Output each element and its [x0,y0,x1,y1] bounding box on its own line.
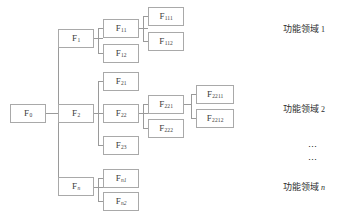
node-label-base: F [207,90,212,99]
node-label-subscript: 2211 [212,94,223,100]
node-label-base: F [116,174,121,183]
node-label-subscript: 2212 [212,118,223,124]
node-label-base: F [72,182,77,191]
node-label-subscript: n2 [121,201,127,207]
domain-label-text: 功能领域 [283,182,319,192]
node-label-subscript: 111 [165,16,173,22]
ellipsis-2: … [308,153,318,162]
node-label-subscript: 2 [77,113,80,119]
node-f1[interactable]: F1 [58,29,94,48]
node-f21[interactable]: F21 [103,72,139,91]
node-f222[interactable]: F222 [148,119,184,138]
node-label-subscript: 1 [77,38,80,44]
node-label-base: F [159,12,164,21]
node-label-base: F [116,49,121,58]
node-f2[interactable]: F2 [58,104,94,123]
domain-2-label: 功能领域2 [283,105,325,114]
domain-n-label: 功能领域n [283,183,325,192]
node-label-subscript: 222 [165,128,174,134]
node-label-subscript: 112 [165,41,173,47]
domain-label-text: 功能领域 [283,104,319,114]
node-label-subscript: 0 [29,113,32,119]
domain-1-label: 功能领域1 [283,25,325,34]
node-f22[interactable]: F22 [103,104,139,123]
edge-f11-split-v [143,16,144,41]
node-label-subscript: n [77,186,80,192]
domain-label-index: n [319,183,325,192]
node-f12[interactable]: F12 [103,44,139,63]
node-f0[interactable]: F0 [10,104,46,123]
node-label-subscript: 11 [121,28,127,34]
node-label-subscript: 12 [121,53,127,59]
node-f2211[interactable]: F2211 [196,85,234,104]
edge-f221-split-v [191,94,192,118]
node-f111[interactable]: F111 [148,7,184,26]
node-f112[interactable]: F112 [148,32,184,51]
diagram-canvas: F0F1F11F12F111F112F2F21F22F23F221F222F22… [0,0,356,216]
node-label-base: F [207,114,212,123]
node-label-base: F [159,100,164,109]
edge-fn-split-v [98,178,99,201]
node-label-subscript: 23 [121,145,127,151]
node-label-base: F [24,109,29,118]
node-label-subscript: 22 [121,113,127,119]
node-f221[interactable]: F221 [148,95,184,114]
node-fn[interactable]: Fn [58,177,94,196]
edge-f0-trunk [46,113,58,114]
domain-label-text: 功能领域 [283,24,319,34]
node-fn1[interactable]: Fn1 [103,169,139,188]
node-fn2[interactable]: Fn2 [103,192,139,211]
node-label-base: F [159,37,164,46]
node-label-base: F [72,109,77,118]
node-label-subscript: 221 [165,104,174,110]
node-f11[interactable]: F11 [103,19,139,38]
node-label-base: F [116,109,121,118]
node-label-base: F [116,24,121,33]
edge-f1-split-v [98,28,99,53]
ellipsis-1: … [308,140,318,149]
node-label-base: F [116,197,121,206]
node-label-base: F [116,141,121,150]
node-label-base: F [72,34,77,43]
domain-label-index: 2 [319,105,325,114]
node-label-base: F [159,124,164,133]
node-f23[interactable]: F23 [103,136,139,155]
node-f2212[interactable]: F2212 [196,109,234,128]
node-label-subscript: n1 [121,178,127,184]
node-label-subscript: 21 [121,81,127,87]
node-label-base: F [116,77,121,86]
domain-label-index: 1 [319,25,325,34]
edge-f22-split-v [143,104,144,128]
